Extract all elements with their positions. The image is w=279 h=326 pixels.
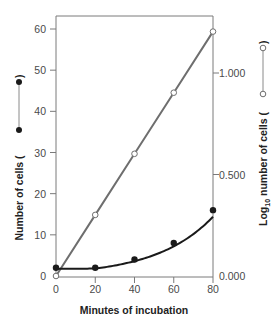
left-tick-label: 0: [40, 270, 46, 282]
x-axis-title: Minutes of incubation: [80, 304, 189, 316]
filled-circle-marker: [131, 256, 137, 262]
left-tick-label: 60: [34, 23, 46, 35]
open-circle-marker: [171, 90, 177, 96]
right-tick-label: 0.000: [219, 270, 245, 282]
x-tick-label: 40: [129, 283, 141, 295]
svg-text:): ): [13, 75, 25, 79]
svg-text:): ): [257, 41, 269, 45]
left-tick-label: 20: [34, 188, 46, 200]
left-tick-label: 30: [34, 147, 46, 159]
right-axis-ticks: 0.0000.5001.000: [213, 67, 245, 282]
log-cells-series: [53, 29, 216, 279]
open-circle-marker: [132, 151, 138, 157]
left-tick-label: 40: [34, 105, 46, 117]
x-tick-label: 60: [168, 283, 180, 295]
open-circle-marker: [210, 29, 216, 35]
filled-circle-marker: [92, 265, 98, 271]
x-tick-label: 80: [207, 283, 219, 295]
right-axis-title-text: Log10 number of cells (: [257, 112, 271, 226]
cell-count-series: [53, 207, 216, 271]
cell-growth-chart: 0102030405060 0.0000.5001.000 020406080 …: [0, 0, 279, 326]
left-tick-label: 50: [34, 64, 46, 76]
x-tick-label: 20: [89, 283, 101, 295]
filled-circle-marker: [210, 207, 216, 213]
right-axis-title: Log10 number of cells ( ): [257, 41, 271, 227]
left-tick-label: 10: [34, 229, 46, 241]
left-axis-title-text: Number of cells (: [13, 155, 25, 241]
open-circle-marker: [92, 212, 98, 218]
right-tick-label: 0.500: [219, 169, 245, 181]
x-tick-label: 0: [53, 283, 59, 295]
left-axis-title: Number of cells ( ): [13, 75, 25, 241]
x-axis-ticks: 020406080: [53, 277, 219, 295]
right-tick-label: 1.000: [219, 67, 245, 79]
open-circle-legend-icon: ): [257, 41, 269, 97]
left-axis-ticks: 0102030405060: [34, 23, 56, 282]
filled-circle-marker: [53, 265, 59, 271]
filled-circle-legend-icon: ): [13, 75, 25, 134]
open-circle-marker: [53, 273, 59, 279]
filled-circle-marker: [171, 240, 177, 246]
